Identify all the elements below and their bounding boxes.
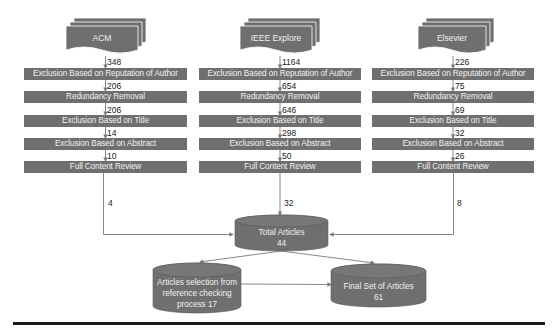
elsevier-step-abstract: Exclusion Based on Abstract bbox=[372, 138, 534, 150]
total-articles-title: Total Articles bbox=[235, 227, 328, 238]
ieee-count-after-author: 654 bbox=[282, 81, 296, 91]
acm-count-after-redundancy: 206 bbox=[107, 105, 121, 115]
elsevier-step-redundancy: Redundancy Removal bbox=[372, 91, 534, 103]
reference-check-line1: Articles selection from bbox=[153, 277, 241, 288]
elsevier-step-full-content: Full Content Review bbox=[372, 161, 534, 173]
acm-count-after-title: 14 bbox=[107, 128, 116, 138]
reference-check-line2: reference checking bbox=[153, 288, 241, 299]
final-set-count: 61 bbox=[331, 292, 426, 303]
acm-count-after-abstract: 10 bbox=[107, 151, 116, 161]
acm-step-redundancy: Redundancy Removal bbox=[24, 91, 187, 103]
acm-count-after-author: 206 bbox=[107, 81, 121, 91]
elsevier-step-title: Exclusion Based on Title bbox=[372, 115, 534, 127]
source-ieee-explore: IEEE Explore bbox=[240, 33, 312, 43]
ieee-step-abstract: Exclusion Based on Abstract bbox=[199, 138, 361, 150]
ieee-step-title: Exclusion Based on Title bbox=[199, 115, 361, 127]
acm-step-full-content: Full Content Review bbox=[24, 161, 187, 173]
elsevier-final-count: 8 bbox=[457, 198, 462, 208]
elsevier-count-after-title: 32 bbox=[455, 128, 464, 138]
ieee-step-author-reputation: Exclusion Based on Reputation of Author bbox=[199, 68, 361, 80]
ieee-count-after-redundancy: 646 bbox=[282, 105, 296, 115]
source-acm: ACM bbox=[66, 33, 138, 43]
reference-check-label: Articles selection from reference checki… bbox=[153, 277, 241, 310]
ieee-count-after-title: 298 bbox=[282, 128, 296, 138]
acm-step-title: Exclusion Based on Title bbox=[24, 115, 187, 127]
ieee-final-count: 32 bbox=[284, 198, 293, 208]
acm-initial-count: 348 bbox=[107, 57, 121, 67]
source-elsevier: Elsevier bbox=[418, 33, 486, 43]
final-set-title: Final Set of Articles bbox=[331, 281, 426, 292]
elsevier-initial-count: 226 bbox=[455, 57, 469, 67]
acm-step-abstract: Exclusion Based on Abstract bbox=[24, 138, 187, 150]
acm-step-author-reputation: Exclusion Based on Reputation of Author bbox=[24, 68, 187, 80]
elsevier-step-author-reputation: Exclusion Based on Reputation of Author bbox=[372, 68, 534, 80]
final-set-label: Final Set of Articles 61 bbox=[331, 281, 426, 303]
reference-check-line3: process 17 bbox=[153, 299, 241, 310]
total-articles-label: Total Articles 44 bbox=[235, 227, 328, 249]
elsevier-count-after-author: 75 bbox=[455, 81, 464, 91]
elsevier-count-after-abstract: 26 bbox=[455, 151, 464, 161]
acm-final-count: 4 bbox=[108, 198, 113, 208]
ieee-step-redundancy: Redundancy Removal bbox=[199, 91, 361, 103]
ieee-step-full-content: Full Content Review bbox=[199, 161, 361, 173]
total-articles-count: 44 bbox=[235, 238, 328, 249]
bottom-rule-divider bbox=[13, 322, 545, 325]
elsevier-count-after-redundancy: 69 bbox=[455, 105, 464, 115]
ieee-count-after-abstract: 50 bbox=[282, 151, 291, 161]
ieee-initial-count: 1164 bbox=[282, 57, 300, 67]
systematic-review-flow-diagram: ACM IEEE Explore Elsevier 348 Exclusion … bbox=[0, 0, 558, 331]
